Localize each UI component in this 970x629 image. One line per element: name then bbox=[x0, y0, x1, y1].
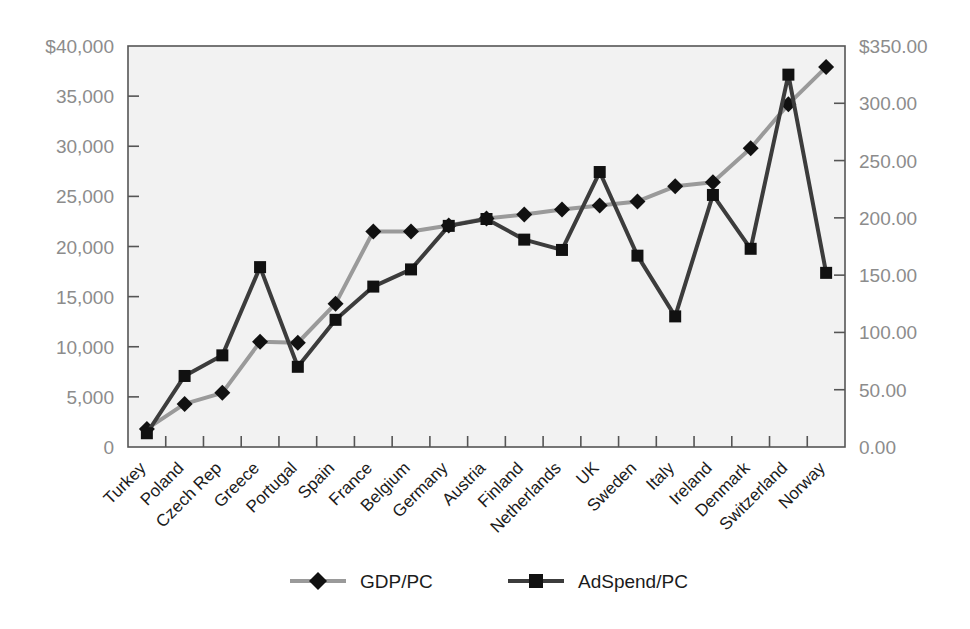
data-point-square-marker bbox=[669, 310, 681, 322]
data-point-square-marker bbox=[254, 261, 266, 273]
data-point-square-marker bbox=[529, 574, 543, 588]
data-point-square-marker bbox=[405, 263, 417, 275]
plot-area bbox=[128, 46, 845, 447]
data-point-square-marker bbox=[594, 166, 606, 178]
right-axis-tick-label: 100.00 bbox=[859, 322, 917, 343]
data-point-square-marker bbox=[292, 361, 304, 373]
data-point-square-marker bbox=[330, 314, 342, 326]
data-point-square-marker bbox=[443, 220, 455, 232]
data-point-square-marker bbox=[820, 267, 832, 279]
data-point-square-marker bbox=[141, 427, 153, 439]
left-axis-tick-label: 15,000 bbox=[56, 287, 114, 308]
left-axis-tick-label: 10,000 bbox=[56, 337, 114, 358]
left-axis-tick-label: 20,000 bbox=[56, 237, 114, 258]
chart-canvas: $40,00035,00030,00025,00020,00015,00010,… bbox=[0, 0, 970, 629]
right-axis-tick-label: 200.00 bbox=[859, 208, 917, 229]
right-axis-tick-label: 250.00 bbox=[859, 151, 917, 172]
left-axis-tick-label: 0 bbox=[103, 437, 114, 458]
data-point-square-marker bbox=[631, 250, 643, 262]
chart-container: $40,00035,00030,00025,00020,00015,00010,… bbox=[0, 0, 970, 629]
right-axis-tick-label: 0.00 bbox=[859, 437, 896, 458]
data-point-square-marker bbox=[179, 370, 191, 382]
data-point-square-marker bbox=[556, 244, 568, 256]
left-axis-tick-label: $40,000 bbox=[45, 36, 114, 57]
right-axis-tick-label: 150.00 bbox=[859, 265, 917, 286]
left-axis-tick-label: 25,000 bbox=[56, 186, 114, 207]
data-point-square-marker bbox=[216, 349, 228, 361]
right-axis-tick-label: $350.00 bbox=[859, 36, 928, 57]
data-point-square-marker bbox=[745, 243, 757, 255]
data-point-square-marker bbox=[707, 189, 719, 201]
right-axis-tick-label: 50.00 bbox=[859, 380, 907, 401]
legend-label: AdSpend/PC bbox=[578, 571, 688, 592]
data-point-square-marker bbox=[518, 234, 530, 246]
right-axis-tick-label: 300.00 bbox=[859, 93, 917, 114]
left-axis-tick-label: 35,000 bbox=[56, 86, 114, 107]
left-axis-tick-label: 5,000 bbox=[66, 387, 114, 408]
data-point-square-marker bbox=[782, 69, 794, 81]
data-point-square-marker bbox=[367, 281, 379, 293]
legend-label: GDP/PC bbox=[360, 571, 433, 592]
data-point-square-marker bbox=[481, 213, 493, 225]
left-axis-tick-label: 30,000 bbox=[56, 136, 114, 157]
